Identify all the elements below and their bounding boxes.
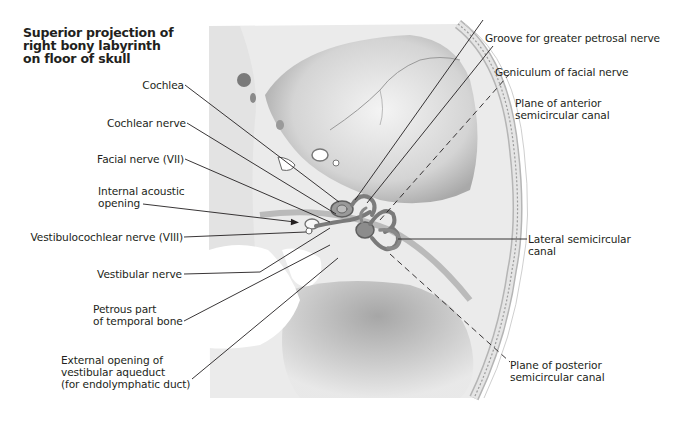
label-petrous-part: Petrous part of temporal bone xyxy=(93,303,183,327)
label-groove-greater-petrosal: Groove for greater petrosal nerve xyxy=(485,32,660,44)
label-geniculum: Geniculum of facial nerve xyxy=(495,66,629,78)
label-vestibulocochlear-nerve: Vestibulocochlear nerve (VIII) xyxy=(30,231,183,243)
label-plane-posterior: Plane of posterior semicircular canal xyxy=(510,359,605,383)
label-vestibular-aqueduct: External opening of vestibular aqueduct … xyxy=(61,354,190,390)
label-vestibular-nerve: Vestibular nerve xyxy=(97,268,182,280)
label-internal-acoustic-opening: Internal acoustic opening xyxy=(98,185,184,209)
label-facial-nerve: Facial nerve (VII) xyxy=(97,153,184,165)
label-cochlear-nerve: Cochlear nerve xyxy=(107,117,186,129)
anatomical-figure: Superior projection of right bony labyri… xyxy=(0,0,681,422)
figure-title: Superior projection of right bony labyri… xyxy=(23,26,173,65)
label-lateral-canal: Lateral semicircular canal xyxy=(528,233,631,257)
label-plane-anterior: Plane of anterior semicircular canal xyxy=(515,97,610,121)
label-cochlea: Cochlea xyxy=(142,79,184,91)
